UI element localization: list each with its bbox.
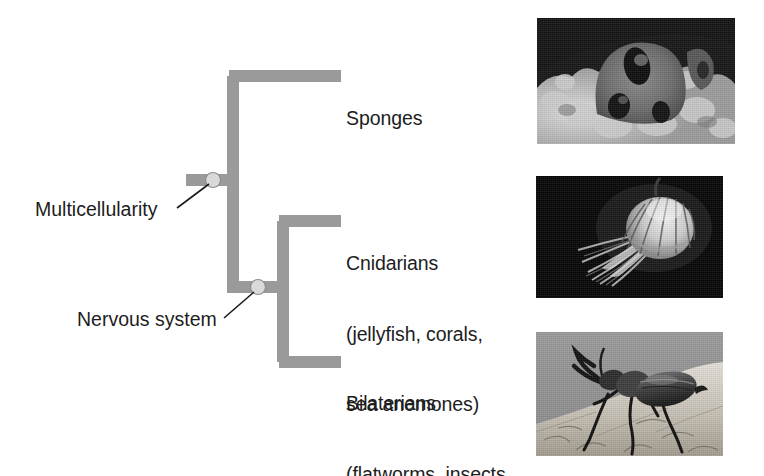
taxon-label-bilaterians: Bilaterians (flatworms, insects, vertebr… [346, 345, 511, 476]
taxon-name-sponges: Sponges [346, 107, 422, 131]
leader-line-nervous-system [224, 292, 254, 318]
jellyfish-photo-image [536, 176, 723, 298]
leader-line-multicellularity [177, 184, 209, 208]
trait-label-nervous-system: Nervous system [77, 308, 217, 330]
taxon-name-cnidarians: Cnidarians [346, 252, 483, 276]
taxon-label-sponges: Sponges [346, 60, 422, 178]
trait-label-multicellularity: Multicellularity [35, 198, 157, 220]
taxon-sub-cnidarians-1: (jellyfish, corals, [346, 323, 483, 347]
beetle-photo-image [536, 332, 723, 456]
sponge-photo-image [537, 18, 735, 144]
beetle-photo [536, 332, 723, 456]
sponge-photo [537, 18, 735, 144]
figure-root: Sponges Cnidarians (jellyfish, corals, s… [0, 0, 764, 476]
taxon-name-bilaterians: Bilaterians [346, 392, 511, 416]
jellyfish-photo [536, 176, 723, 298]
taxon-sub-bilaterians-1: (flatworms, insects, [346, 463, 511, 476]
